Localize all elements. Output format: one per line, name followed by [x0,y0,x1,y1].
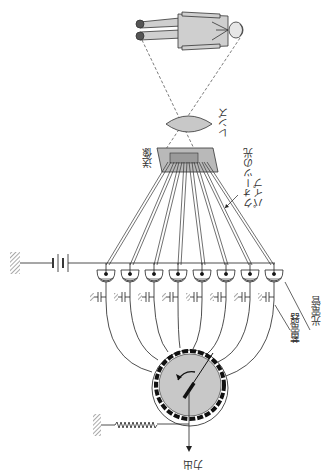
capacitor-6 [210,292,226,302]
lens-icon [166,116,212,132]
spring-resistor-icon [115,422,157,428]
capacitor-1 [90,292,106,302]
capacitor-2 [114,292,130,302]
light-pipe-label: クォーツの光パイプ [244,148,268,208]
photocell-5 [193,263,211,282]
battery-icon [53,254,68,272]
photocell-7 [241,263,259,282]
capacitor-7 [234,292,250,302]
output-label: 出力 [184,453,204,470]
capacitor-label: 蓄電器 [291,313,301,343]
ground-icon-2 [93,414,101,436]
photocell-1 [97,263,115,282]
person-figure [136,12,243,50]
ground-icon [10,252,20,274]
capacitor-row [90,292,274,302]
photocell-label: 光電管 [312,296,322,326]
capacitor-3 [138,292,154,302]
photocell-2 [121,263,139,282]
photocell-8 [265,263,283,282]
inverted-image [170,153,198,163]
capacitor-4 [162,292,178,302]
photocell-row [97,263,283,282]
projection-lines [142,38,240,158]
capacitor-8 [258,292,274,302]
image-label: 送像 [143,148,153,168]
capacitor-5 [186,292,202,302]
commutator-dial [152,350,228,426]
photocell-3 [145,263,163,282]
photocell-4 [169,263,187,282]
lens-label: レンズ [219,108,229,138]
diagram-svg [0,0,330,470]
output-arrow-icon [186,446,192,452]
diagram-canvas: レンズ 送像 クォーツの光パイプ 光電管 蓄電器 出力 [0,0,330,470]
capacitor-pointer [275,305,290,330]
photocell-6 [217,263,235,282]
